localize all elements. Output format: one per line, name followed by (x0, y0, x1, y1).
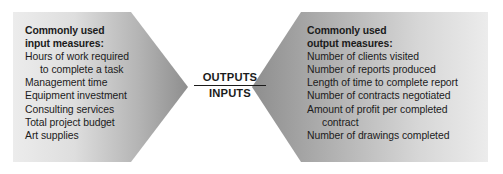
output-item: contract (307, 116, 458, 129)
input-item: Hours of work required (25, 50, 129, 63)
input-item: Art supplies (25, 129, 129, 142)
input-item: to complete a task (25, 63, 129, 76)
output-item: Number of contracts negotiated (307, 89, 458, 102)
input-item: Total project budget (25, 116, 129, 129)
input-heading-line-1: Commonly used (25, 24, 129, 37)
ratio-denominator: INPUTS (194, 86, 266, 100)
input-heading-line-2: input measures: (25, 37, 129, 50)
ratio-numerator: OUTPUTS (194, 71, 266, 86)
input-item: Consulting services (25, 103, 129, 116)
output-heading-line-1: Commonly used (307, 24, 458, 37)
output-heading-line-2: output measures: (307, 37, 458, 50)
output-item: Number of clients visited (307, 50, 458, 63)
output-item: Number of drawings completed (307, 129, 458, 142)
input-item: Equipment investment (25, 89, 129, 102)
productivity-ratio-diagram: Commonly used input measures: Hours of w… (0, 0, 503, 174)
output-item: Number of reports produced (307, 63, 458, 76)
outputs-over-inputs-ratio: OUTPUTS INPUTS (194, 71, 266, 100)
input-item: Management time (25, 76, 129, 89)
output-item: Amount of profit per completed (307, 103, 458, 116)
output-measures-panel: Commonly used output measures: Number of… (307, 24, 458, 142)
output-item: Length of time to complete report (307, 76, 458, 89)
input-measures-panel: Commonly used input measures: Hours of w… (25, 24, 129, 142)
